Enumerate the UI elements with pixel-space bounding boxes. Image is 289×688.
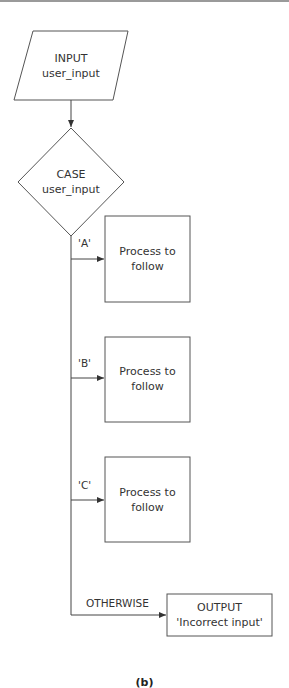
parallelogram-shape: [14, 31, 128, 100]
process-c-line1: Process to: [119, 486, 176, 499]
output-node: OUTPUT 'Incorrect input': [167, 594, 272, 636]
flowchart: INPUT user_input CASE user_input 'A' Pro…: [0, 0, 289, 688]
process-a-rect: [105, 216, 190, 302]
output-node-line1: OUTPUT: [197, 601, 242, 614]
process-a-line1: Process to: [119, 245, 176, 258]
process-b-line1: Process to: [119, 365, 176, 378]
input-node: INPUT user_input: [14, 31, 128, 100]
edge-label-otherwise: OTHERWISE: [86, 597, 149, 609]
case-node-line2: user_input: [42, 183, 100, 196]
process-a-line2: follow: [131, 260, 163, 273]
process-b-node: Process to follow: [105, 337, 190, 422]
figure-caption: (b): [0, 676, 289, 688]
input-node-line1: INPUT: [55, 52, 88, 65]
case-node-line1: CASE: [56, 168, 85, 181]
process-c-line2: follow: [131, 501, 163, 514]
process-a-node: Process to follow: [105, 216, 190, 302]
process-c-node: Process to follow: [105, 457, 190, 542]
process-c-rect: [105, 457, 190, 542]
output-node-line2: 'Incorrect input': [176, 616, 263, 629]
process-b-line2: follow: [131, 380, 163, 393]
input-node-line2: user_input: [42, 67, 100, 80]
edge-label-a: 'A': [78, 237, 91, 249]
edge-label-c: 'C': [78, 479, 91, 491]
edge-label-b: 'B': [78, 357, 91, 369]
